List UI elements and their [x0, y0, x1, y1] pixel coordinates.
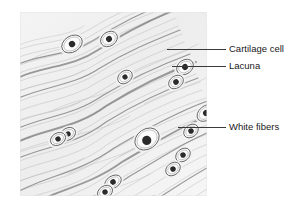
leader-line-white-fibers: [178, 127, 226, 128]
label-white-fibers: White fibers: [229, 121, 279, 132]
figure-container: Cartilage cell Lacuna White fibers: [0, 0, 307, 209]
illustration-panel: [20, 12, 207, 196]
label-lacuna: Lacuna: [229, 60, 260, 71]
label-cartilage-cell: Cartilage cell: [229, 43, 284, 54]
fibrocartilage-drawing: [20, 12, 207, 196]
leader-line-lacuna: [172, 66, 226, 67]
leader-line-cartilage-cell: [167, 49, 226, 50]
